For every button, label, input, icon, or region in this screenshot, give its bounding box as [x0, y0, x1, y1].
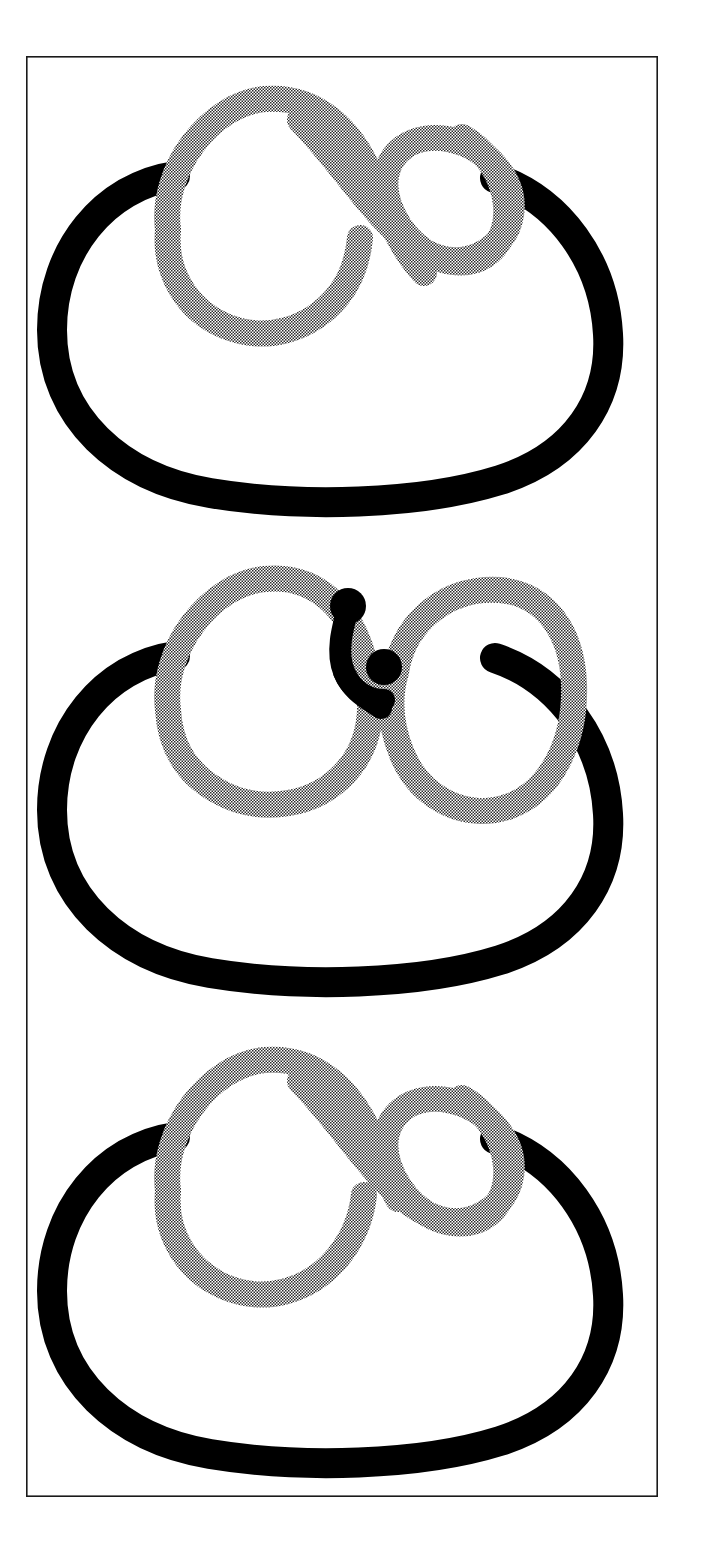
gray-strand-crossing-upper — [300, 1081, 512, 1221]
gray-strand-left-upper — [167, 1060, 398, 1199]
gray-figure-eight — [167, 99, 512, 334]
knot-diagram-svg — [0, 0, 701, 1542]
panel-middle — [52, 579, 608, 983]
black-rope-loop — [52, 176, 608, 502]
clasp-bulb-upper — [330, 588, 366, 624]
black-rope-loop — [52, 656, 608, 982]
panel-bottom — [52, 1060, 608, 1463]
figure-root: Knot diagram: band-sum / clasp move sequ… — [0, 0, 701, 1542]
gray-strand-under-left — [168, 230, 360, 333]
black-rope-loop — [52, 1137, 608, 1463]
clasp-bulb-lower — [366, 649, 402, 685]
gray-strand-over-crossing — [300, 120, 512, 260]
panel-top — [52, 99, 608, 502]
gray-figure-eight — [167, 1060, 512, 1295]
gray-strand-over-crossing — [168, 1191, 364, 1294]
